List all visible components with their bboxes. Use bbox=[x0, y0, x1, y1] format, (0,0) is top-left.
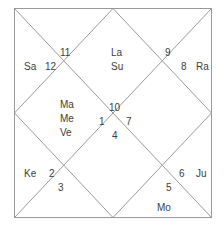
house-4-number: 4 bbox=[112, 131, 118, 141]
house-1-planet-ve: Ve bbox=[60, 128, 72, 138]
house-6-number: 6 bbox=[179, 169, 185, 179]
house-1-number: 1 bbox=[99, 117, 105, 127]
house-1-planet-ma: Ma bbox=[60, 100, 74, 110]
house-3-number: 3 bbox=[58, 183, 64, 193]
house-11-number: 11 bbox=[60, 48, 70, 58]
house-12-number: 12 bbox=[45, 62, 56, 72]
house-10-number: 10 bbox=[109, 103, 120, 113]
house-6-planet-ju: Ju bbox=[196, 169, 207, 179]
house-2-planet-ke: Ke bbox=[24, 169, 36, 179]
house-12-planet-sa: Sa bbox=[24, 62, 36, 72]
house-8-number: 8 bbox=[181, 62, 187, 72]
house-5-planet-mo: Mo bbox=[157, 203, 171, 213]
house-9-number: 9 bbox=[165, 48, 171, 58]
house-8-planet-ra: Ra bbox=[196, 62, 209, 72]
chart-grid bbox=[0, 0, 224, 228]
house-2-number: 2 bbox=[49, 169, 55, 179]
vedic-birth-chart: Sa1211LaSu98RaMaMeVe10174Ke236Ju5Mo bbox=[0, 0, 224, 228]
house-5-number: 5 bbox=[166, 183, 172, 193]
house-7-number: 7 bbox=[126, 117, 132, 127]
house-1-lagna: La bbox=[111, 48, 122, 58]
house-1-planet-su: Su bbox=[111, 62, 123, 72]
house-1-planet-me: Me bbox=[60, 114, 74, 124]
